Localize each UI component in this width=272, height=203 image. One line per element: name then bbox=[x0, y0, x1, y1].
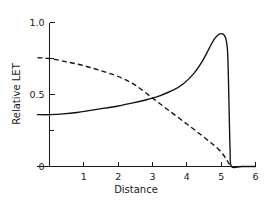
bragg-peak-chart-figure: 12345600.51.0 Distance Relative LET bbox=[0, 0, 272, 203]
x-tick-label: 1 bbox=[81, 171, 87, 182]
y-tick-label: 0 bbox=[38, 161, 44, 172]
y-axis-title: Relative LET bbox=[11, 62, 22, 124]
data-curves-layer bbox=[37, 34, 255, 168]
x-tick-label: 3 bbox=[149, 171, 155, 182]
chart-plot-area: 12345600.51.0 Distance Relative LET bbox=[0, 0, 272, 203]
y-tick-label: 1.0 bbox=[29, 17, 44, 28]
y-tick-label: 0.5 bbox=[29, 89, 44, 100]
x-axis-title: Distance bbox=[114, 184, 158, 195]
axis-lines-layer bbox=[37, 23, 255, 167]
solid-curve bbox=[37, 34, 255, 168]
dashed-curve bbox=[37, 58, 230, 167]
x-tick-label: 2 bbox=[115, 171, 121, 182]
x-tick-label: 4 bbox=[184, 171, 190, 182]
axis-ticks-layer bbox=[50, 23, 256, 167]
x-tick-label: 5 bbox=[218, 171, 224, 182]
x-tick-label: 6 bbox=[252, 171, 258, 182]
